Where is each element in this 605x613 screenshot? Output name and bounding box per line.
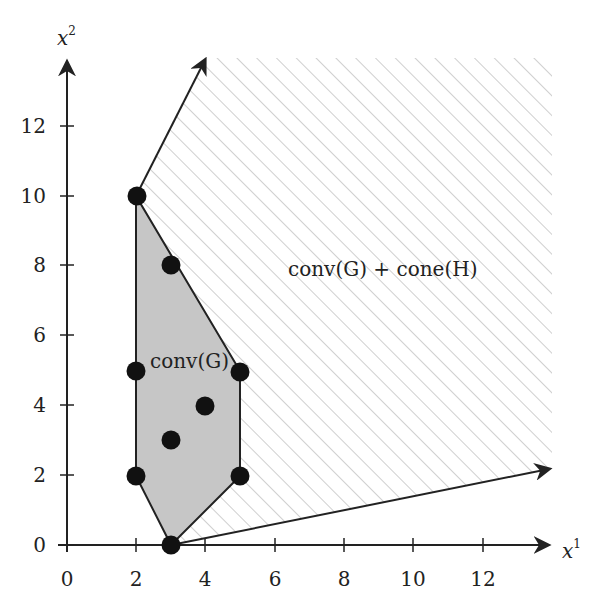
data-point [231,467,250,486]
y-axis-label: x2 [57,24,76,50]
y-tick-label: 2 [33,463,46,487]
x-tick-label: 0 [61,567,74,591]
region-label: conv(G) + cone(H) [288,257,477,281]
data-point [127,362,146,381]
y-tick-label: 8 [33,253,46,277]
y-tick-labels: 0 2 4 6 8 10 12 [21,114,46,557]
x-tick-labels: 0 2 4 6 8 10 12 [61,567,496,591]
data-point [196,397,215,416]
x-tick-label: 12 [470,567,495,591]
y-tick-label: 4 [33,393,46,417]
hull-label: conv(G) [150,349,229,373]
y-tick-label: 0 [33,533,46,557]
x-tick-label: 4 [199,567,212,591]
polyhedron-figure: 0 2 4 6 8 10 12 0 2 4 6 8 10 12 x1 x2 co… [0,0,605,613]
x-tick-label: 10 [400,567,425,591]
data-point [162,536,181,555]
data-point [128,187,147,206]
x-axis-label: x1 [562,537,581,563]
y-tick-label: 10 [21,184,46,208]
x-tick-label: 2 [130,567,143,591]
y-tick-label: 6 [33,323,46,347]
x-tick-label: 8 [338,567,351,591]
data-point [162,431,181,450]
y-tick-label: 12 [21,114,46,138]
data-point [162,256,181,275]
data-point [231,363,250,382]
x-tick-label: 6 [269,567,282,591]
data-point [127,467,146,486]
